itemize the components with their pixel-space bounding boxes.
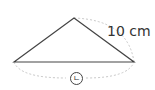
side-length-label: 10 cm [107,24,151,38]
base-label-circle: ㄴ [70,72,83,85]
base-arc-left [14,62,66,78]
base-arc-right [86,62,134,78]
